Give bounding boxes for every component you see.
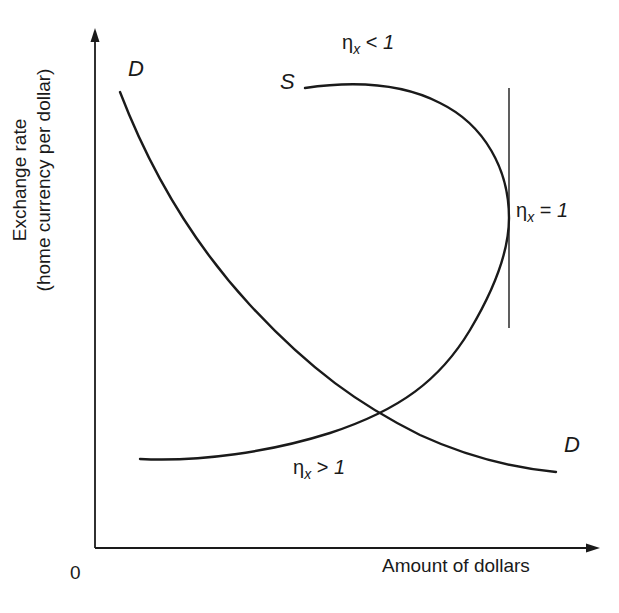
supply-label: S — [280, 71, 295, 93]
eta-symbol: η — [516, 199, 527, 221]
eta-symbol: η — [342, 31, 353, 53]
demand-label-top: D — [128, 58, 144, 80]
x-axis-title: Amount of dollars — [382, 556, 530, 575]
eta-value: 1 — [557, 199, 568, 221]
eta-subscript: x — [304, 466, 311, 482]
eta-relation: < — [360, 31, 383, 53]
demand-label-bottom: D — [564, 434, 580, 456]
x-axis-arrow-icon — [586, 544, 600, 553]
y-axis-title: Exchange rate (home currency per dollar) — [8, 30, 56, 330]
y-axis-title-line2: (home currency per dollar) — [32, 30, 56, 330]
eta-value: 1 — [383, 31, 394, 53]
eta-value: 1 — [334, 456, 345, 478]
y-axis-title-line1: Exchange rate — [8, 30, 32, 330]
eta-subscript: x — [527, 209, 534, 225]
y-axis-arrow-icon — [91, 28, 100, 42]
eta-subscript: x — [353, 41, 360, 57]
eta-relation: = — [534, 199, 557, 221]
exchange-market-diagram — [0, 0, 619, 613]
elasticity-label-unit: ηx = 1 — [516, 200, 568, 220]
elasticity-label-elastic: ηx > 1 — [293, 457, 345, 477]
origin-label: 0 — [70, 563, 81, 582]
elasticity-label-inelastic: ηx < 1 — [342, 32, 394, 52]
eta-relation: > — [311, 456, 334, 478]
supply-curve — [140, 84, 509, 459]
eta-symbol: η — [293, 456, 304, 478]
